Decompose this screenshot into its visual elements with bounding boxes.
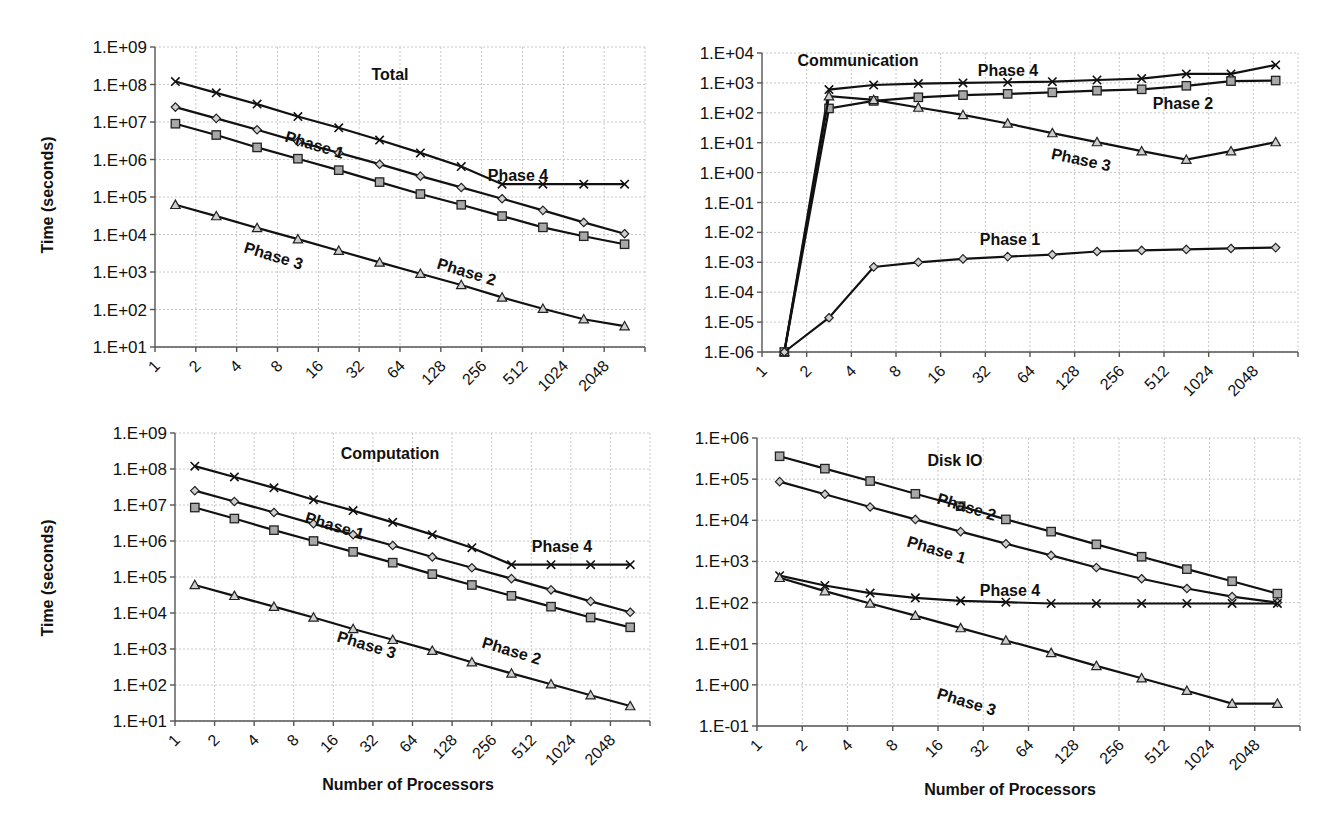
triangle-marker-icon — [190, 580, 199, 588]
square-marker-icon — [1047, 527, 1055, 535]
diamond-marker-icon — [1137, 575, 1145, 583]
x-axis-title: Number of Processors — [924, 781, 1096, 798]
diamond-marker-icon — [626, 608, 634, 616]
square-marker-icon — [1271, 76, 1279, 84]
x-tick-label: 1 — [165, 731, 183, 749]
y-tick-label: 1.E+01 — [695, 635, 749, 654]
figure-canvas: 1.E+011.E+021.E+031.E+041.E+051.E+061.E+… — [0, 0, 1318, 826]
diamond-marker-icon — [547, 586, 555, 594]
y-tick-label: 1.E+06 — [695, 429, 749, 448]
y-tick-label: 1.E+02 — [113, 676, 167, 695]
x-tick-label: 256 — [459, 357, 490, 388]
diamond-marker-icon — [457, 183, 465, 191]
x-tick-label: 2048 — [1226, 736, 1263, 773]
x-tick-label: 32 — [967, 736, 992, 761]
y-tick-label: 1.E+01 — [93, 338, 147, 357]
y-tick-label: 1.E+01 — [113, 712, 167, 731]
x-tick-label: 4 — [244, 731, 262, 749]
y-tick-label: 1.E-03 — [704, 253, 754, 272]
x-tick-label: 2 — [204, 731, 222, 749]
series-label: Phase 4 — [488, 167, 549, 184]
series-phase-1 — [780, 243, 1280, 356]
x-tick-label: 512 — [1141, 362, 1172, 393]
square-marker-icon — [1137, 553, 1145, 561]
diamond-marker-icon — [389, 541, 397, 549]
chart-title: Total — [371, 66, 408, 83]
y-tick-label: 1.E+05 — [695, 470, 749, 489]
x-tick-label: 512 — [500, 357, 531, 388]
diamond-marker-icon — [959, 255, 967, 263]
x-tick-label: 1 — [752, 362, 770, 380]
square-marker-icon — [294, 155, 302, 163]
square-marker-icon — [1003, 90, 1011, 98]
y-tick-label: 1.E+05 — [93, 188, 147, 207]
diamond-marker-icon — [1227, 244, 1235, 252]
x-tick-label: 1 — [145, 357, 163, 375]
x-tick-label: 4 — [226, 357, 244, 375]
diamond-marker-icon — [1271, 243, 1279, 251]
chart-title: Computation — [341, 445, 440, 462]
y-tick-label: 1.E-06 — [704, 343, 754, 362]
y-tick-label: 1.E+00 — [695, 676, 749, 695]
square-marker-icon — [428, 570, 436, 578]
diamond-marker-icon — [171, 103, 179, 111]
diamond-marker-icon — [1092, 563, 1100, 571]
square-marker-icon — [914, 93, 922, 101]
triangle-marker-icon — [171, 200, 180, 208]
x-tick-label: 256 — [469, 731, 500, 762]
square-marker-icon — [1183, 565, 1191, 573]
y-tick-label: 1.E-02 — [704, 223, 754, 242]
square-marker-icon — [1227, 77, 1235, 85]
diamond-marker-icon — [539, 206, 547, 214]
x-tick-label: 2048 — [575, 357, 612, 394]
x-tick-label: 64 — [384, 357, 409, 382]
diamond-marker-icon — [212, 114, 220, 122]
square-marker-icon — [507, 592, 515, 600]
square-marker-icon — [866, 477, 874, 485]
diamond-marker-icon — [586, 597, 594, 605]
square-marker-icon — [1228, 577, 1236, 585]
series-label: Phase 3 — [1050, 145, 1113, 174]
series-label: Phase 3 — [935, 685, 998, 719]
diamond-marker-icon — [230, 497, 238, 505]
series-label: Phase 1 — [980, 231, 1041, 248]
series-label: Phase 2 — [935, 490, 998, 524]
x-tick-label: 16 — [317, 731, 342, 756]
y-tick-label: 1.E+02 — [695, 594, 749, 613]
diamond-marker-icon — [1093, 247, 1101, 255]
diamond-marker-icon — [1137, 246, 1145, 254]
x-tick-label: 16 — [924, 362, 949, 387]
series-label: Phase 2 — [1153, 95, 1214, 112]
x-tick-label: 32 — [969, 362, 994, 387]
x-tick-label: 128 — [1051, 736, 1082, 767]
y-tick-label: 1.E+06 — [113, 532, 167, 551]
x-tick-label: 512 — [508, 731, 539, 762]
square-marker-icon — [580, 232, 588, 240]
x-tick-label: 128 — [1052, 362, 1083, 393]
diamond-marker-icon — [620, 230, 628, 238]
y-axis-title: Time (seconds) — [39, 519, 56, 636]
x-tick-label: 2 — [792, 736, 810, 754]
square-marker-icon — [309, 537, 317, 545]
diamond-marker-icon — [416, 172, 424, 180]
y-tick-label: 1.E+07 — [93, 113, 147, 132]
series-label: Phase 2 — [435, 255, 498, 289]
square-marker-icon — [1273, 589, 1281, 597]
series-label: Phase 2 — [480, 634, 543, 668]
gridlines — [155, 47, 645, 347]
diamond-marker-icon — [191, 486, 199, 494]
square-marker-icon — [498, 212, 506, 220]
y-axis-title: Time (seconds) — [39, 136, 56, 253]
diamond-marker-icon — [911, 515, 919, 523]
series-phase-3 — [780, 91, 1281, 355]
square-marker-icon — [1002, 515, 1010, 523]
square-marker-icon — [586, 613, 594, 621]
square-marker-icon — [457, 201, 465, 209]
chart-title: Communication — [798, 52, 919, 69]
y-tick-label: 1.E+00 — [700, 164, 754, 183]
square-marker-icon — [539, 223, 547, 231]
y-tick-label: 1.E+04 — [93, 226, 147, 245]
square-marker-icon — [1137, 85, 1145, 93]
diamond-marker-icon — [914, 258, 922, 266]
square-marker-icon — [620, 240, 628, 248]
